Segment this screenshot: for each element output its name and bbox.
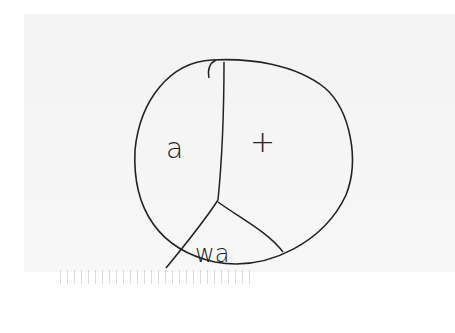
- top-hook: [208, 60, 216, 78]
- faint-bleedthrough-marks: [60, 270, 420, 286]
- region-label-left: a: [166, 132, 183, 165]
- region-label-bottom: wa: [195, 240, 229, 268]
- region-label-right: +: [250, 124, 275, 159]
- vertical-divider: [218, 62, 224, 200]
